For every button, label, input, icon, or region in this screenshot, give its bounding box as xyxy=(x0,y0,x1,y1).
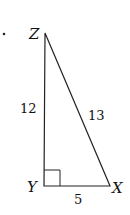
side-label-zy: 12 xyxy=(20,101,37,116)
right-angle-marker xyxy=(44,170,60,186)
side-label-zx: 13 xyxy=(88,108,105,123)
vertex-label-x: X xyxy=(111,179,124,197)
triangle-diagram: Z Y X 12 13 5 xyxy=(0,0,130,215)
side-label-yx: 5 xyxy=(74,192,82,207)
bullet-dot xyxy=(3,33,6,36)
vertex-label-z: Z xyxy=(28,25,40,43)
vertex-label-y: Y xyxy=(27,178,39,196)
